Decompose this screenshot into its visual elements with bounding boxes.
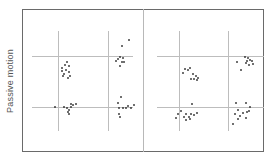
data-point: [70, 103, 72, 105]
panel-left: [32, 31, 135, 131]
data-point: [122, 107, 124, 109]
data-point: [249, 106, 251, 108]
data-point: [246, 111, 248, 113]
data-point: [239, 115, 241, 117]
cluster-upper-right: [115, 39, 130, 67]
data-point: [64, 64, 66, 66]
data-point: [251, 60, 253, 62]
data-point: [75, 103, 77, 105]
data-point: [183, 116, 185, 118]
data-point: [245, 102, 247, 104]
data-point: [123, 61, 125, 63]
data-point: [252, 63, 254, 65]
data-point: [185, 119, 187, 121]
cluster-upper-left: [182, 67, 199, 81]
data-point: [66, 107, 68, 109]
data-point: [248, 64, 250, 66]
data-point: [196, 79, 198, 81]
data-point: [72, 104, 74, 106]
data-point: [122, 57, 124, 59]
data-point: [128, 39, 130, 41]
data-point: [193, 114, 195, 116]
data-point: [192, 73, 194, 75]
data-point: [197, 77, 199, 79]
data-point: [249, 59, 251, 61]
panel-right: [157, 31, 264, 131]
data-point: [119, 56, 121, 58]
data-point: [63, 73, 65, 75]
data-point: [68, 65, 70, 67]
data-point: [61, 67, 63, 69]
data-point: [246, 60, 248, 62]
data-point: [193, 78, 195, 80]
data-point: [190, 113, 192, 115]
data-point: [67, 111, 69, 113]
data-point: [189, 118, 191, 120]
data-point: [121, 61, 123, 63]
data-point: [120, 96, 122, 98]
data-point: [119, 65, 121, 67]
data-point: [247, 57, 249, 59]
data-point: [240, 69, 242, 71]
data-point: [117, 58, 119, 60]
data-point: [133, 104, 135, 106]
cluster-lower-right: [232, 102, 251, 125]
data-point: [236, 61, 238, 63]
data-point: [242, 112, 244, 114]
data-point: [68, 113, 70, 115]
data-point: [118, 107, 120, 109]
data-point: [67, 77, 69, 79]
data-point: [175, 117, 177, 119]
data-point: [196, 112, 198, 114]
data-point: [185, 113, 187, 115]
data-point: [130, 107, 132, 109]
data-point: [63, 106, 65, 108]
data-point: [127, 105, 129, 107]
data-point: [69, 75, 71, 77]
data-point: [188, 116, 190, 118]
cluster-upper-right: [236, 56, 254, 71]
data-point: [195, 75, 197, 77]
data-point: [121, 45, 123, 47]
data-point: [115, 60, 117, 62]
data-point: [68, 109, 70, 111]
data-point: [177, 113, 179, 115]
data-point: [248, 110, 250, 112]
data-point: [61, 70, 63, 72]
scatter-panels: [0, 0, 270, 161]
data-point: [54, 106, 56, 108]
data-point: [232, 123, 234, 125]
data-point: [245, 117, 247, 119]
data-point: [117, 102, 119, 104]
data-point: [189, 67, 191, 69]
data-point: [118, 113, 120, 115]
data-point: [190, 78, 192, 80]
data-point: [245, 62, 247, 64]
data-point: [187, 69, 189, 71]
data-point: [62, 75, 64, 77]
data-point: [235, 102, 237, 104]
data-point: [119, 116, 121, 118]
cluster-lower-left: [54, 103, 77, 115]
data-point: [66, 61, 68, 63]
data-point: [70, 106, 72, 108]
data-point: [180, 110, 182, 112]
data-point: [125, 107, 127, 109]
data-point: [184, 68, 186, 70]
data-point: [182, 72, 184, 74]
data-point: [234, 113, 236, 115]
data-point: [68, 71, 70, 73]
data-point: [191, 103, 193, 105]
cluster-lower-left: [175, 103, 198, 121]
data-point: [65, 69, 67, 71]
data-point: [237, 118, 239, 120]
data-point: [237, 109, 239, 111]
cluster-upper-left: [61, 61, 71, 79]
data-point: [244, 56, 246, 58]
